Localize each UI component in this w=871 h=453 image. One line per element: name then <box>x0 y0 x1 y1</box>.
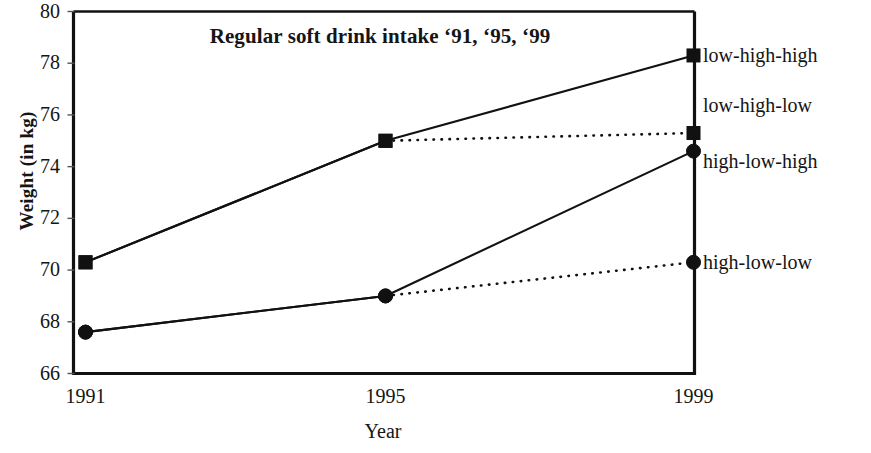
series-low-high-high <box>86 55 694 262</box>
markers-high-low-low <box>79 255 701 339</box>
markers-high-low-high <box>79 144 701 339</box>
series-low-high-low <box>86 133 694 262</box>
plot-area <box>0 0 871 453</box>
chart-figure: Weight (in kg) Year Regular soft drink i… <box>0 0 871 453</box>
markers-low-high-high <box>79 49 700 269</box>
series-high-low-high <box>86 151 694 332</box>
axis-spines <box>74 12 695 374</box>
markers-low-high-low <box>79 127 700 269</box>
